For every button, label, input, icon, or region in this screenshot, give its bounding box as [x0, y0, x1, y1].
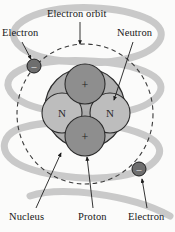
- proton-bottom: +: [65, 116, 105, 156]
- leader-nucleus: [36, 153, 61, 208]
- proton-top-glyph: +: [82, 78, 89, 92]
- leader-neutron: [114, 42, 133, 100]
- proton-top: +: [65, 64, 105, 104]
- neutron-right-glyph: N: [106, 107, 114, 119]
- label-electron-top: Electron: [2, 28, 38, 39]
- label-electron-orbit: Electron orbit: [47, 9, 106, 20]
- label-proton: Proton: [78, 212, 107, 223]
- label-nucleus: Nucleus: [9, 212, 44, 223]
- electron-upper-left-glyph: –: [31, 61, 38, 72]
- label-electron-bottom: Electron: [128, 212, 164, 223]
- neutron-left-glyph: N: [58, 107, 66, 119]
- electron-lower-right-glyph: –: [136, 164, 143, 175]
- electron-upper-left: –: [27, 59, 41, 73]
- leader-proton: [87, 157, 93, 208]
- label-neutron: Neutron: [117, 28, 152, 39]
- electron-lower-right: –: [132, 162, 146, 176]
- proton-bottom-glyph: +: [82, 130, 89, 144]
- atom-diagram: N N + + – –: [0, 0, 175, 232]
